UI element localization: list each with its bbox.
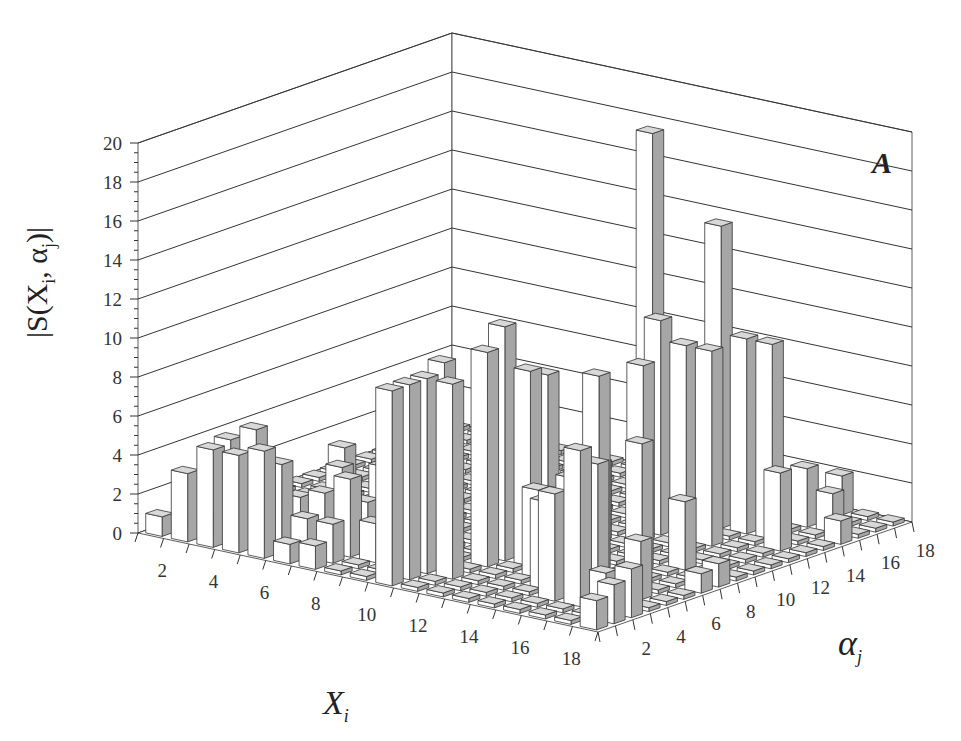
x-tick xyxy=(467,605,470,614)
x-tick xyxy=(237,555,240,564)
x-tick-label: 10 xyxy=(357,604,376,625)
x-tick xyxy=(391,588,394,597)
x-tick xyxy=(595,632,598,641)
z-tick-label: 8 xyxy=(113,367,123,388)
z-tick-label: 18 xyxy=(103,172,122,193)
y-tick xyxy=(720,589,722,599)
y-tick xyxy=(825,553,827,563)
x-tick xyxy=(186,544,189,553)
x-tick-label: 18 xyxy=(562,648,581,669)
z-tick-label: 2 xyxy=(113,484,123,505)
bar-front-face xyxy=(730,335,746,534)
bar-front-face xyxy=(146,513,162,536)
bar-front-face xyxy=(222,452,238,553)
bar-front-face xyxy=(764,470,780,552)
x-tick xyxy=(314,572,317,581)
bar-front-face xyxy=(791,465,807,527)
bar-front-face xyxy=(580,597,596,630)
y-tick xyxy=(790,565,792,575)
x-tick xyxy=(135,533,138,542)
z-tick-label: 0 xyxy=(113,523,123,544)
bar-side-face xyxy=(780,469,791,551)
y-axis-title-sub: j xyxy=(857,647,862,667)
x-tick-label: 14 xyxy=(460,626,480,647)
y-tick-label: 4 xyxy=(676,626,686,647)
bar-side-face xyxy=(597,597,608,630)
bar-front-face xyxy=(669,498,685,570)
y-tick xyxy=(703,595,705,605)
z-tick-label: 6 xyxy=(113,406,123,427)
x-axis-title-main: X xyxy=(323,684,344,721)
bar-front-face xyxy=(274,541,290,564)
y-tick xyxy=(650,614,652,624)
bar-front-face xyxy=(248,448,264,559)
x-tick xyxy=(518,616,521,625)
x-tick xyxy=(212,550,215,559)
bar-side-face xyxy=(315,542,326,569)
y-tick xyxy=(912,522,914,532)
z-axis-title-sub-i: i xyxy=(39,279,59,284)
bar-front-face xyxy=(436,381,452,580)
x-axis-title: Xi xyxy=(323,684,349,727)
x-tick-label: 6 xyxy=(260,582,270,603)
x-tick-label: 16 xyxy=(511,637,530,658)
x-tick xyxy=(288,566,291,575)
plot-area: 0246810121416182024681012141618246810121… xyxy=(0,0,961,741)
y-tick-label: 8 xyxy=(746,601,756,622)
y-tick xyxy=(738,583,740,593)
x-tick-label: 2 xyxy=(158,560,168,581)
x-tick-label: 8 xyxy=(311,593,321,614)
y-tick xyxy=(860,540,862,550)
panel-label: A xyxy=(872,146,892,180)
x-tick xyxy=(493,610,496,619)
bar-front-face xyxy=(376,387,392,586)
y-tick-label: 18 xyxy=(916,540,935,561)
y-axis-title-main: α xyxy=(838,623,857,663)
z-axis-title-part: , α xyxy=(20,248,53,279)
bar-front-face xyxy=(197,446,213,547)
x-tick xyxy=(161,539,164,548)
x-tick xyxy=(263,561,266,570)
y-tick xyxy=(685,601,687,611)
z-tick-label: 20 xyxy=(103,133,122,154)
bar-front-face xyxy=(171,470,187,542)
x-tick xyxy=(365,583,368,592)
x-tick xyxy=(544,621,547,630)
y-tick-label: 12 xyxy=(811,577,830,598)
y-tick xyxy=(842,546,844,556)
y-tick-label: 14 xyxy=(846,565,866,586)
x-tick xyxy=(339,577,342,586)
bar-side-face xyxy=(333,520,344,563)
bar-front-face xyxy=(564,447,580,607)
y-tick xyxy=(895,528,897,538)
x-tick-label: 12 xyxy=(408,615,427,636)
bar-front-face xyxy=(538,490,554,601)
y-tick xyxy=(615,626,617,636)
bar-front-face xyxy=(299,542,315,569)
y-tick xyxy=(668,608,670,618)
bar-front-face xyxy=(695,348,711,547)
bar-side-face xyxy=(487,349,498,567)
y-tick-label: 6 xyxy=(711,613,721,634)
z-tick-label: 4 xyxy=(113,445,123,466)
y-tick xyxy=(598,632,600,642)
y-tick xyxy=(755,577,757,587)
z-tick-label: 10 xyxy=(103,328,122,349)
y-tick xyxy=(877,534,879,544)
x-tick xyxy=(416,594,419,603)
z-tick-label: 12 xyxy=(103,289,122,310)
x-tick xyxy=(442,599,445,608)
bar-side-face xyxy=(685,498,696,570)
bar-side-face xyxy=(453,380,464,579)
z-axis-title-part: |S(X xyxy=(20,284,53,338)
bar-front-face xyxy=(360,520,376,563)
x-axis-title-sub: i xyxy=(344,706,349,726)
y-tick-label: 16 xyxy=(881,552,900,573)
bar-side-face xyxy=(410,381,421,580)
y-tick xyxy=(772,571,774,581)
x-tick xyxy=(569,627,572,636)
y-tick xyxy=(633,620,635,630)
y-axis-title: αj xyxy=(838,622,862,668)
bar3d-chart: 0246810121416182024681012141618246810121… xyxy=(0,0,961,741)
bar-side-face xyxy=(392,387,403,586)
